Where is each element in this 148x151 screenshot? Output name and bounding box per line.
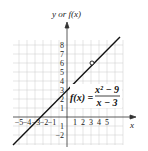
svg-text:x − 3: x − 3 xyxy=(95,97,117,108)
svg-text:−2: −2 xyxy=(55,131,64,140)
svg-text:−1: −1 xyxy=(48,118,57,127)
svg-text:1: 1 xyxy=(60,104,64,113)
svg-text:5: 5 xyxy=(105,118,109,127)
svg-text:2: 2 xyxy=(81,118,85,127)
open-circle-hole xyxy=(90,61,94,65)
function-graph: y or f(x) x −5 −4 −3 −2 −1 1 2 3 4 5 8 7… xyxy=(0,0,148,151)
svg-text:8: 8 xyxy=(60,41,64,50)
y-axis-arrow-icon xyxy=(65,22,69,28)
x-axis-label: x xyxy=(129,120,134,130)
y-axis-label: y or f(x) xyxy=(51,9,81,19)
svg-text:4: 4 xyxy=(60,77,64,86)
svg-text:1: 1 xyxy=(73,118,77,127)
svg-text:3: 3 xyxy=(89,118,93,127)
equation-label: f(x) = x² − 9 x − 3 xyxy=(70,84,122,108)
svg-text:1: 1 xyxy=(60,122,64,131)
svg-text:−4: −4 xyxy=(23,118,32,127)
x-axis-arrow-icon xyxy=(130,115,136,119)
svg-text:4: 4 xyxy=(97,118,101,127)
svg-text:6: 6 xyxy=(60,59,64,68)
y-tick-labels: 8 7 6 5 4 3 2 1 1 −2 xyxy=(55,41,64,140)
svg-text:7: 7 xyxy=(60,50,64,59)
svg-text:5: 5 xyxy=(60,68,64,77)
svg-text:x² − 9: x² − 9 xyxy=(94,84,119,95)
svg-text:f(x) =: f(x) = xyxy=(70,92,93,104)
